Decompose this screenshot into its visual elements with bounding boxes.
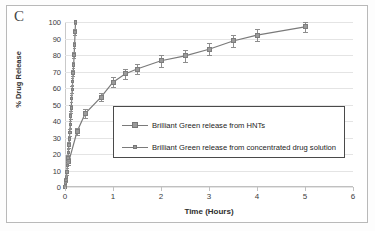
data-point [123, 71, 128, 76]
y-tick-label: 70 [33, 67, 61, 76]
error-bar-cap [72, 58, 76, 59]
data-point [71, 71, 74, 74]
data-point [72, 63, 75, 66]
legend-marker-icon [122, 142, 148, 152]
data-point [69, 123, 72, 126]
panel-label: C [14, 8, 25, 25]
x-tick-label: 0 [63, 192, 67, 201]
error-bar-cap [69, 119, 73, 120]
y-axis-ticks: 0102030405060708090100 [30, 22, 61, 187]
error-bar-cap [68, 142, 72, 143]
error-bar-cap [183, 62, 188, 63]
y-tick-label: 50 [33, 100, 61, 109]
x-tick-mark [113, 187, 114, 191]
error-bar-cap [66, 161, 70, 162]
error-bar-cap [65, 175, 69, 176]
data-point [73, 30, 76, 33]
chart-legend: Brilliant Green release from HNTs Brilli… [113, 106, 345, 158]
y-tick-label: 60 [33, 84, 61, 93]
error-bar-cap [65, 179, 69, 180]
legend-item-hnts: Brilliant Green release from HNTs [122, 115, 336, 135]
data-point [159, 58, 164, 63]
error-bar-cap [123, 79, 128, 80]
plot-area: Brilliant Green release from HNTs Brilli… [65, 22, 353, 187]
x-tick-mark [257, 187, 258, 191]
legend-marker-icon [122, 120, 148, 130]
error-bar-cap [73, 48, 77, 49]
error-bar-cap [231, 35, 236, 36]
error-bar-cap [67, 148, 71, 149]
data-point [99, 95, 104, 100]
data-point [71, 88, 74, 91]
data-point [72, 53, 75, 56]
error-bar-cap [69, 128, 73, 129]
data-point [183, 53, 188, 58]
error-bar-cap [75, 135, 80, 136]
x-tick-label: 2 [159, 192, 163, 201]
y-tick-label: 80 [33, 51, 61, 60]
legend-label: Brilliant Green release from concentrate… [152, 143, 336, 152]
error-bar-cap [207, 55, 212, 56]
error-bar-cap [255, 41, 260, 42]
error-bar-cap [69, 111, 73, 112]
error-bar-cap [70, 102, 74, 103]
figure-panel-c: C 0102030405060708090100 % Drug Release … [0, 0, 375, 231]
y-axis-title: % Drug Release [14, 32, 23, 128]
error-bar-cap [72, 68, 76, 69]
y-tick-label: 100 [33, 18, 61, 27]
error-bar-cap [70, 93, 74, 94]
error-bar-cap [135, 74, 140, 75]
data-point [65, 170, 68, 173]
error-bar-cap [111, 87, 116, 88]
data-point [111, 80, 116, 85]
error-bar-cap [99, 101, 104, 102]
legend-label: Brilliant Green release from HNTs [152, 121, 265, 130]
error-bar-cap [64, 182, 68, 183]
legend-item-solution: Brilliant Green release from concentrate… [122, 137, 336, 157]
data-point [207, 47, 212, 52]
data-point [67, 151, 70, 154]
x-tick-label: 1 [111, 192, 115, 201]
error-bar-cap [111, 77, 116, 78]
error-bar-cap [74, 24, 78, 25]
data-point [74, 20, 77, 23]
error-bar-cap [68, 136, 72, 137]
error-bar-cap [71, 85, 75, 86]
data-point [67, 143, 70, 146]
error-bar-cap [303, 22, 308, 23]
error-bar-cap [83, 118, 88, 119]
data-point [71, 80, 74, 83]
error-bar-cap [255, 29, 260, 30]
y-tick-label: 40 [33, 117, 61, 126]
error-bar-cap [159, 55, 164, 56]
y-tick-label: 10 [33, 166, 61, 175]
error-bar-cap [135, 64, 140, 65]
data-point [69, 114, 72, 117]
data-point [68, 131, 71, 134]
x-tick-mark [209, 187, 210, 191]
error-bar-cap [303, 32, 308, 33]
error-bar-cap [231, 47, 236, 48]
y-tick-label: 20 [33, 150, 61, 159]
data-point [303, 24, 308, 29]
y-tick-label: 30 [33, 133, 61, 142]
x-tick-mark [353, 187, 354, 191]
x-tick-mark [305, 187, 306, 191]
error-bar-cap [67, 155, 71, 156]
data-point [75, 129, 80, 134]
data-point [70, 97, 73, 100]
y-tick-label: 90 [33, 34, 61, 43]
data-point [231, 38, 236, 43]
data-point [73, 43, 76, 46]
data-point [135, 67, 140, 72]
data-point [68, 137, 71, 140]
data-point [65, 175, 68, 178]
x-tick-mark [65, 187, 66, 191]
x-tick-label: 6 [351, 192, 355, 201]
error-bar-cap [66, 168, 70, 169]
data-point [83, 111, 88, 116]
error-bar-cap [159, 67, 164, 68]
error-bar-cap [123, 69, 128, 70]
y-tick-label: 0 [33, 183, 61, 192]
x-tick-label: 3 [207, 192, 211, 201]
